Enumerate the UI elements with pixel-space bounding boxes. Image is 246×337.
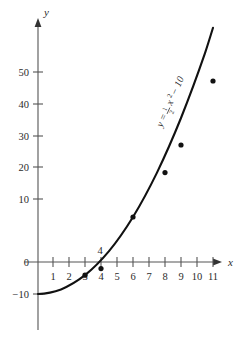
y-tick-label-minus-10: −10 (13, 289, 29, 300)
y-axis-label: y (43, 6, 49, 18)
y-tick-label-50: 50 (19, 67, 30, 78)
x-tick-label-9: 9 (178, 271, 183, 282)
equation-label-group: y = 1 2 x 2 − 10 (153, 74, 190, 131)
chart-figure: y 50 40 30 20 10 0 −10 x (0, 0, 246, 337)
x-tick-label-1: 1 (50, 271, 55, 282)
curve-group (38, 28, 213, 294)
x-tick-label-11: 11 (208, 271, 218, 282)
x-tick-label-8: 8 (162, 271, 167, 282)
x-tick-label-10: 10 (192, 271, 203, 282)
parabola-curve (38, 28, 213, 294)
y-axis-arrow-icon (35, 18, 42, 27)
x-tick-label-7: 7 (146, 271, 151, 282)
x-tick-label-5: 5 (114, 271, 119, 282)
x-axis-group: x (24, 256, 233, 268)
y-tick-label-10: 10 (19, 194, 30, 205)
y-tick-label-20: 20 (19, 162, 30, 173)
annotation-label-4: 4 (97, 245, 103, 256)
equation-variable: x (163, 98, 175, 108)
x-tick-label-2: 2 (66, 271, 71, 282)
data-point-x3 (82, 273, 87, 278)
equation-fraction-denominator: 2 (168, 109, 176, 115)
annotation-group: 4 (97, 245, 103, 256)
x-axis-label: x (227, 256, 233, 268)
data-point-x8 (162, 170, 167, 175)
data-point-x4 (98, 266, 103, 271)
equation-constant: 10 (172, 75, 186, 89)
y-tick-labels: 50 40 30 20 10 0 −10 (13, 67, 29, 300)
data-point-x11 (210, 78, 215, 83)
x-tick-label-6: 6 (130, 271, 135, 282)
y-tick-label-40: 40 (19, 99, 30, 110)
y-axis-group: y (35, 6, 49, 330)
data-point-x6 (130, 214, 135, 219)
y-tick-label-30: 30 (19, 131, 30, 142)
data-point-x9 (178, 142, 183, 147)
function-graph: y 50 40 30 20 10 0 −10 x (0, 0, 246, 337)
x-tick-label-4: 4 (98, 271, 104, 282)
x-tick-labels: 1 2 3 4 5 6 7 8 9 10 11 (50, 271, 218, 282)
x-axis-arrow-icon (213, 259, 222, 266)
